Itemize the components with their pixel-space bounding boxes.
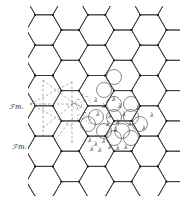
scatter-dot [90,102,91,103]
lattice-vertex [34,75,36,77]
lattice-vertex [157,105,159,107]
scatter-dot [88,123,89,124]
lambda-marker: λ [101,102,106,109]
lattice-vertex [131,90,133,92]
lattice-vertex [139,166,141,168]
scatter-dot [83,112,84,113]
lattice-vertex [157,44,159,46]
scatter-dot [67,105,68,106]
lattice-vertex [104,44,106,46]
hex-cell [53,60,88,90]
lambda-marker: λ [101,137,106,144]
lattice-vertex [34,166,36,168]
lattice-vertex [157,166,159,168]
scatter-dot [83,115,84,116]
scatter-dot [81,104,82,105]
scatter-dot [83,119,84,120]
scatter-dot [77,107,78,108]
lattice-vertex [113,59,115,61]
label-lower-left: ℱm. [12,143,27,151]
lambda-marker: λ [87,136,92,143]
scatter-dot [78,99,79,100]
lattice-vertex [34,44,36,46]
circle-marker [107,70,122,85]
scatter-dot [86,96,87,97]
hex-cell [132,15,167,45]
scatter-dot [90,119,91,120]
lambda-marker: λ [107,112,112,119]
scatter-dot [79,99,80,100]
lambda-marker: λ [89,145,94,152]
hex-cell [27,15,62,45]
lattice-vertex [166,90,168,92]
scatter-dot [80,107,81,108]
lattice-vertex [61,181,63,183]
scatter-dot [76,109,77,110]
lambda-marker: λ [115,144,120,151]
scatter-dot [83,94,84,95]
hex-cell [53,91,88,121]
scatter-dot [90,98,91,99]
lattice-vertex [78,90,80,92]
hex-cell [79,166,114,196]
lattice-vertex [52,44,54,46]
lattice-vertex [166,120,168,122]
hex-cell [27,106,62,136]
hex-cell [53,30,88,60]
lattice-vertex [52,166,54,168]
hex-cell [132,45,167,75]
lattice-vertex [131,150,133,152]
lattice-vertex [61,90,63,92]
hex-cell [132,166,167,196]
lattice-vertex [87,166,89,168]
lattice-vertex [166,59,168,61]
lambda-marker: λ [141,124,146,131]
scatter-dot [81,107,82,108]
lattice-vertex [139,75,141,77]
lattice-vertex [113,150,115,152]
lattice-vertex [78,59,80,61]
lambda-marker: λ [135,104,140,111]
lambda-marker: λ [97,146,102,153]
dashed-triangle-lines [30,80,80,145]
scatter-dot [80,121,81,122]
lattice-vertex [78,181,80,183]
hex-cell [27,166,62,196]
hex-cell [79,45,114,75]
lambda-marker: λ [105,120,110,127]
scatter-dot [83,97,84,98]
lambda-marker: λ [111,95,116,102]
label-upper-left: ℱm. [9,103,24,111]
lattice-vertex [104,166,106,168]
scatter-dot [79,105,80,106]
hexagonal-lattice-diagram: λλλλλλλλλλλλλλλλλλλλλλ [0,0,187,203]
lattice-vertex [52,75,54,77]
lattice-vertex [139,44,141,46]
scatter-dot [87,96,88,97]
hex-cell [105,30,140,60]
lattice-vertex [113,181,115,183]
scatter-dot [72,101,73,102]
lambda-marker: λ [115,118,120,125]
scatter-dot [74,103,75,104]
lattice-vertex [87,105,89,107]
scatter-dot [77,115,78,116]
scattered-dots [67,94,92,123]
lattice-vertex [166,150,168,152]
lattice-vertex [52,105,54,107]
lattice-vertex [78,150,80,152]
lattice-vertex [61,150,63,152]
hex-cell [27,136,62,166]
hex-cell [79,15,114,45]
scatter-dot [86,121,87,122]
lattice-vertex [87,14,89,16]
scatter-dot [77,104,78,105]
hex-cell [27,45,62,75]
scatter-dot [73,103,74,104]
scatter-dot [83,108,84,109]
lambda-marker: λ [113,126,118,133]
lattice-vertex [157,14,159,16]
hex-cell [27,76,62,106]
lattice-vertex [131,59,133,61]
lattice-vertex [34,135,36,137]
